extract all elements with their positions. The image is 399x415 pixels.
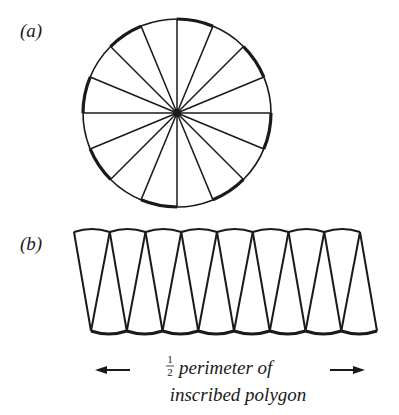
sector-edge — [341, 232, 360, 331]
top-arc — [74, 229, 110, 232]
fraction-numerator: 1 — [167, 353, 173, 365]
sector-edge — [146, 232, 163, 331]
sector-edge — [110, 232, 127, 331]
spoke — [177, 113, 243, 179]
sector-edge — [127, 232, 146, 331]
bottom-arc — [234, 331, 270, 334]
spoke — [111, 113, 177, 179]
thick-arc — [264, 113, 271, 149]
fraction-denominator: 2 — [167, 366, 173, 378]
top-arc — [324, 229, 360, 232]
top-arc — [217, 229, 253, 232]
left-arrow-icon — [95, 366, 107, 374]
sector-edge — [360, 232, 377, 331]
caption-line-1: perimeter of — [177, 357, 275, 378]
bottom-arc — [270, 331, 306, 334]
sector-edge — [74, 232, 91, 331]
rearranged-sectors — [74, 229, 377, 334]
sector-edge — [234, 232, 253, 331]
top-arc — [289, 229, 325, 232]
sector-edge — [217, 232, 234, 331]
sector-edge — [163, 232, 182, 331]
bottom-arc — [198, 331, 234, 334]
center-point — [173, 109, 181, 117]
thick-arc — [243, 47, 263, 78]
sector-edge — [91, 232, 110, 331]
thick-arc — [111, 26, 142, 46]
sector-edge — [198, 232, 217, 331]
bottom-arc — [127, 331, 163, 334]
caption-line-2: inscribed polygon — [170, 384, 307, 405]
thick-arc — [141, 200, 177, 207]
top-arc — [181, 229, 217, 232]
bottom-arc — [306, 331, 342, 334]
caption-group: 1 2 perimeter of inscribed polygon — [95, 353, 365, 405]
figure: (a) (b) 1 2 perimeter of inscribed polyg… — [0, 0, 399, 415]
thick-arc — [177, 19, 213, 26]
spoke — [111, 47, 177, 113]
bottom-arc — [163, 331, 199, 334]
sector-edge — [306, 232, 325, 331]
top-arc — [253, 229, 289, 232]
top-arc — [146, 229, 182, 232]
top-arc — [110, 229, 146, 232]
panel-a-label: (a) — [20, 20, 42, 42]
thick-arc — [213, 179, 244, 199]
sector-edge — [253, 232, 270, 331]
sector-edge — [324, 232, 341, 331]
thick-arc — [90, 149, 110, 180]
bottom-arc — [341, 331, 377, 334]
sector-edge — [181, 232, 198, 331]
sectored-circle — [83, 19, 271, 207]
sector-edge — [289, 232, 306, 331]
bottom-arc — [91, 331, 127, 334]
spoke — [177, 47, 243, 113]
panel-b-label: (b) — [20, 233, 42, 255]
thick-arc — [83, 77, 90, 113]
right-arrow-icon — [353, 366, 365, 374]
sector-edge — [270, 232, 289, 331]
